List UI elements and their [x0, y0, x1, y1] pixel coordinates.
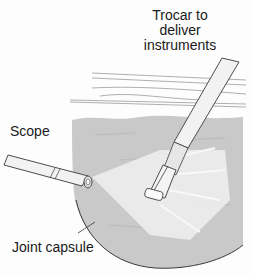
scope-label: Scope: [10, 124, 50, 139]
trocar-label: Trocar to deliver instruments: [132, 8, 228, 53]
trocar-label-line1: Trocar to: [132, 8, 228, 23]
arthroscopy-illustration: Trocar to deliver instruments Scope Join…: [0, 0, 253, 274]
trocar-label-line3: instruments: [132, 38, 228, 53]
trocar-label-line2: deliver: [132, 23, 228, 38]
joint-capsule-label: Joint capsule: [12, 240, 94, 255]
